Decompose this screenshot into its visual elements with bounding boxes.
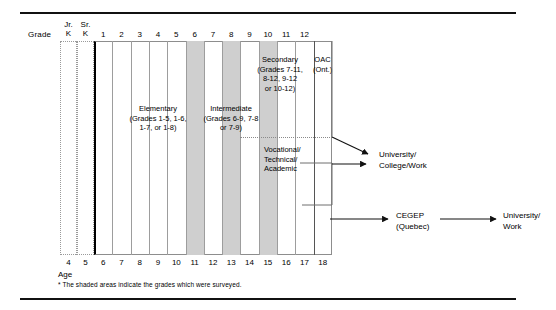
- kindergarten-bottom-dash: [60, 254, 94, 255]
- outcome-university-college-work: University/ College/Work: [379, 150, 427, 171]
- shaded-band-grade-6: [186, 41, 204, 255]
- grade-tick-9: 9: [240, 30, 258, 39]
- grade-separator-7-8: [222, 41, 223, 255]
- kindergarten-column-sr-k: [77, 41, 94, 255]
- vocational-line-2: Technical/: [264, 155, 314, 165]
- grade-tick-7: 7: [204, 30, 222, 39]
- bottom-rule: [20, 298, 516, 300]
- age-tick-5: 5: [77, 258, 94, 267]
- intermediate-line-1: Intermediate: [186, 104, 276, 114]
- age-tick-8: 8: [131, 258, 149, 267]
- age-tick-17: 17: [295, 258, 313, 267]
- cegep-line-1: CEGEP: [396, 211, 429, 222]
- secondary-line-3: 8-12, 9-12: [247, 74, 313, 84]
- shaded-band-grade-8: [222, 41, 240, 255]
- grade-age-structure-figure: Grade Elementary (Grades 1-5, 1-6,: [0, 0, 556, 310]
- plot-area: Elementary (Grades 1-5, 1-6, 1-7, or 1-8…: [60, 41, 332, 255]
- secondary-line-4: or 10-12): [247, 84, 313, 94]
- stage-label-oac: OAC (Ont.): [313, 55, 332, 74]
- grade-tick-jr-k: Jr. K: [60, 20, 77, 38]
- figure-footnote: * The shaded areas indicate the grades w…: [58, 281, 242, 288]
- arrow-oac-to-university: [332, 137, 368, 154]
- grade-tick-3: 3: [131, 30, 149, 39]
- grade-separator-8-9: [240, 41, 241, 255]
- secondary-line-1: Secondary: [247, 55, 313, 65]
- outcome-cegep: CEGEP (Quebec): [396, 211, 429, 232]
- grade-separator-6-7: [204, 41, 205, 255]
- grade-tick-8: 8: [222, 30, 240, 39]
- uw-line-2: Work: [503, 222, 540, 233]
- age-tick-11: 11: [186, 258, 204, 267]
- grade-tick-2: 2: [112, 30, 130, 39]
- intermediate-line-3: or 7-9): [186, 123, 276, 133]
- age-tick-6: 6: [94, 258, 112, 267]
- stage-label-intermediate: Intermediate (Grades 6-9, 7-8 or 7-9): [186, 104, 276, 133]
- grade-tick-1: 1: [94, 30, 112, 39]
- ucw-line-2: College/Work: [379, 161, 427, 172]
- intermediate-line-2: (Grades 6-9, 7-8: [186, 114, 276, 124]
- age-tick-14: 14: [240, 258, 258, 267]
- age-axis-title: Age: [58, 270, 72, 279]
- kindergarten-column-jr-k: [60, 41, 77, 255]
- outcome-university-work: University/ Work: [503, 211, 540, 232]
- uw-line-1: University/: [503, 211, 540, 222]
- age-tick-9: 9: [149, 258, 167, 267]
- oac-line-2: (Ont.): [313, 65, 332, 75]
- age-tick-18: 18: [314, 258, 332, 267]
- grade-tick-sr-k-line1: Sr.: [77, 20, 94, 29]
- age-tick-4: 4: [60, 258, 77, 267]
- grade-tick-12: 12: [295, 30, 313, 39]
- top-rule: [20, 12, 516, 14]
- age-tick-13: 13: [222, 258, 240, 267]
- grade-tick-sr-k-line2: K: [77, 29, 94, 38]
- stage-label-secondary: Secondary (Grades 7-11, 8-12, 9-12 or 10…: [247, 55, 313, 93]
- grade-separator-4-5: [167, 41, 168, 255]
- oac-line-1: OAC: [313, 55, 332, 65]
- age-tick-10: 10: [167, 258, 185, 267]
- secondary-line-2: (Grades 7-11,: [247, 65, 313, 75]
- grade-tick-4: 4: [149, 30, 167, 39]
- age-tick-12: 12: [204, 258, 222, 267]
- vocational-line-1: Vocational/: [264, 145, 314, 155]
- grade-separator-2-3: [131, 41, 132, 255]
- cegep-line-2: (Quebec): [396, 222, 429, 233]
- secondary-vocational-divider: [240, 137, 332, 138]
- stage-label-vocational: Vocational/ Technical/ Academic: [264, 145, 314, 174]
- age-tick-16: 16: [277, 258, 295, 267]
- grade-tick-6: 6: [186, 30, 204, 39]
- grade-tick-jr-k-line2: K: [60, 29, 77, 38]
- age-tick-15: 15: [259, 258, 277, 267]
- grade-tick-10: 10: [259, 30, 277, 39]
- grade-tick-11: 11: [277, 30, 295, 39]
- grade-separator-5-6: [186, 41, 187, 255]
- grade-separator-3-4: [149, 41, 150, 255]
- ucw-line-1: University/: [379, 150, 427, 161]
- grade-separator-1-2: [112, 41, 113, 255]
- kindergarten-top-dash: [60, 41, 94, 42]
- age-tick-7: 7: [112, 258, 130, 267]
- grade-tick-jr-k-line1: Jr.: [60, 20, 77, 29]
- grade-tick-5: 5: [167, 30, 185, 39]
- grade-tick-sr-k: Sr. K: [77, 20, 94, 38]
- vocational-line-3: Academic: [264, 164, 314, 174]
- grade-axis-title: Grade: [28, 30, 51, 39]
